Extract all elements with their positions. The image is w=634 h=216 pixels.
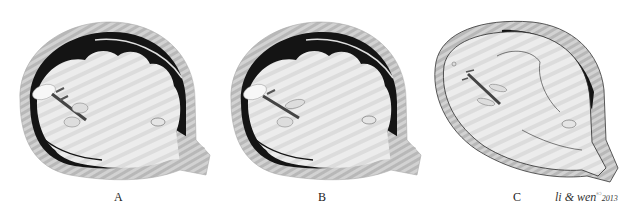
- credit-year: 2013: [602, 194, 618, 203]
- credit-text: li & wen: [555, 190, 596, 204]
- pineal-structure: [562, 120, 576, 128]
- panel-b: B: [211, 0, 422, 216]
- pineal-structure: [151, 118, 165, 126]
- panel-c: C: [422, 0, 633, 216]
- panel-a: A: [0, 0, 211, 216]
- pineal-structure: [362, 116, 376, 124]
- author-credit: li & wen©2013: [555, 190, 618, 205]
- panel-label-a: A: [114, 190, 123, 205]
- brain: [248, 51, 399, 168]
- panel-label-c: C: [513, 190, 521, 205]
- panel-label-b: B: [318, 190, 326, 205]
- brain: [37, 51, 188, 168]
- cranium-illustration-a: [0, 0, 211, 216]
- cranium-illustration-c: [422, 0, 633, 216]
- cranium-illustration-b: [211, 0, 422, 216]
